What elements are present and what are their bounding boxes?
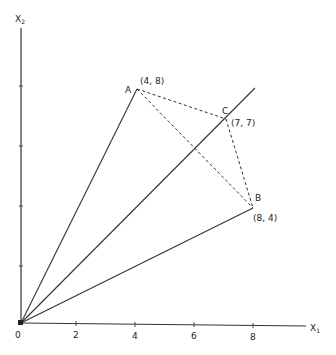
tick-label-2: 2: [73, 330, 79, 340]
tick-label-0: 0: [15, 330, 21, 340]
ray-origin-through-C: [21, 88, 255, 323]
tick-label-8: 8: [250, 332, 256, 342]
dashed-A-C: [137, 89, 226, 119]
point-B-label: B: [255, 193, 261, 203]
point-C-label: C: [222, 106, 228, 116]
x-axis-label: X1: [310, 323, 320, 334]
x-axis: [21, 323, 306, 326]
y-axis-label: X2: [15, 14, 25, 25]
ray-origin-to-A: [21, 89, 137, 323]
point-C-coord: (7, 7): [231, 118, 255, 128]
point-A-label: A: [125, 85, 132, 95]
point-B-coord: (8, 4): [253, 213, 277, 223]
point-A-coord: (4, 8): [140, 76, 164, 86]
dashed-C-B: [226, 119, 253, 208]
vector-diagram: X2 X1 0 2 4 6 8 A (4, 8) C (7, 7) B (8, …: [0, 0, 336, 355]
ray-origin-to-B: [21, 208, 253, 323]
tick-label-6: 6: [191, 331, 197, 341]
tick-label-4: 4: [132, 331, 138, 341]
origin-marker: [18, 320, 23, 325]
